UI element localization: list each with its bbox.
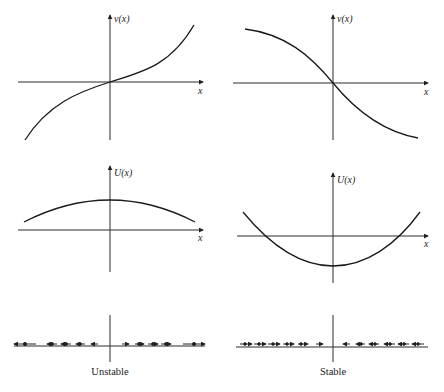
x-axis-label: x: [197, 85, 203, 96]
flow-arrows-left: [14, 342, 98, 345]
caption-stable: Stable: [320, 366, 347, 377]
flow-arrows-left: [240, 343, 323, 346]
stability-diagram: v(x) x v(x) x U(x) x U(x) x: [0, 0, 444, 392]
phase-line-unstable: Unstable: [14, 315, 205, 377]
y-axis-label: v(x): [337, 13, 353, 25]
y-axis-label: U(x): [114, 167, 133, 179]
panel-v-stable: v(x) x: [233, 13, 429, 140]
panel-U-stable: U(x) x: [237, 173, 429, 283]
y-axis-label: v(x): [114, 13, 130, 25]
panel-v-unstable: v(x) x: [18, 13, 203, 140]
flow-arrows-right: [343, 343, 424, 346]
x-axis-label: x: [423, 238, 429, 249]
x-axis-label: x: [423, 86, 429, 97]
panel-U-unstable: U(x) x: [18, 166, 203, 272]
U-curve-well: [243, 212, 420, 266]
y-axis-label: U(x): [337, 174, 356, 186]
caption-unstable: Unstable: [91, 366, 129, 377]
flow-arrows-right: [122, 342, 205, 345]
x-axis-label: x: [197, 232, 203, 243]
phase-line-stable: Stable: [236, 315, 428, 377]
